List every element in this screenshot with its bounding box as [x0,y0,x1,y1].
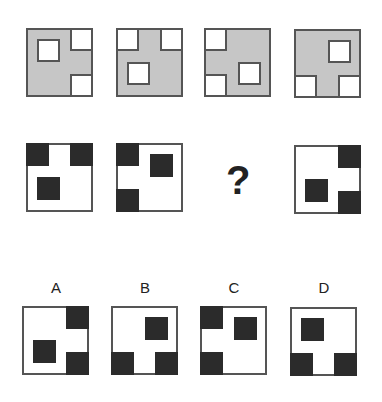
black-square-shape [66,352,89,375]
white-square-shape [70,74,93,97]
row1-figure-1 [26,28,93,97]
black-square-shape [145,317,168,340]
white-square-shape [116,28,139,51]
black-square-shape [200,306,223,329]
white-square-shape [70,28,93,51]
row1-figure-3 [204,28,271,97]
white-square-shape [238,62,261,85]
black-square-shape [234,317,257,340]
black-square-shape [26,143,49,166]
white-square-shape [160,28,183,51]
black-square-shape [33,340,56,363]
white-square-shape [204,28,227,51]
black-square-shape [150,154,173,177]
black-square-shape [111,352,134,375]
black-square-shape [155,352,178,375]
white-square-shape [37,39,60,62]
option-d-figure[interactable] [290,307,357,376]
option-label-d: D [314,279,334,296]
black-square-shape [37,177,60,200]
black-square-shape [290,353,313,376]
black-square-shape [200,352,223,375]
white-square-shape [338,75,361,98]
row2-figure-1 [26,143,93,212]
black-square-shape [66,306,89,329]
white-square-shape [204,74,227,97]
black-square-shape [116,189,139,212]
option-label-b: B [135,279,155,296]
black-square-shape [70,143,93,166]
option-b-figure[interactable] [111,306,178,375]
option-c-figure[interactable] [200,306,267,375]
option-label-a: A [46,279,66,296]
white-square-shape [328,40,351,63]
black-square-shape [334,353,357,376]
option-a-figure[interactable] [22,306,89,375]
row2-figure-2 [116,143,183,212]
question-mark: ? [226,160,250,200]
black-square-shape [301,318,324,341]
white-square-shape [294,75,317,98]
row2-figure-3 [294,145,361,214]
row1-figure-4 [294,29,361,98]
black-square-shape [116,143,139,166]
black-square-shape [338,191,361,214]
black-square-shape [305,179,328,202]
option-label-c: C [224,279,244,296]
row1-figure-2 [116,28,183,97]
white-square-shape [127,62,150,85]
black-square-shape [338,145,361,168]
